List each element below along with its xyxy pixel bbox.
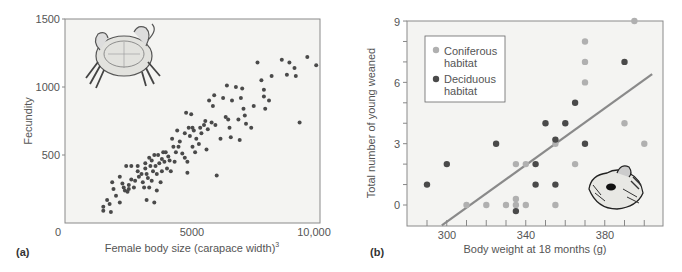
data-point bbox=[513, 161, 519, 167]
panel-a: 500 1000 1500 0 5000 10,000 Female body … bbox=[0, 0, 340, 272]
y-tick-6: 6 bbox=[394, 77, 400, 89]
x-axis-label: Female body size (carapace width)3 bbox=[105, 241, 280, 254]
data-point bbox=[141, 180, 145, 184]
data-point bbox=[129, 164, 133, 168]
data-point bbox=[259, 78, 263, 82]
data-point bbox=[140, 172, 144, 176]
panel-b-label: (b) bbox=[370, 246, 384, 258]
data-point bbox=[155, 188, 159, 192]
data-point bbox=[156, 153, 160, 157]
data-point bbox=[236, 118, 240, 122]
data-point bbox=[151, 169, 155, 173]
x-tick-380: 380 bbox=[596, 229, 614, 241]
data-point bbox=[238, 138, 242, 142]
data-point bbox=[168, 158, 172, 162]
data-point bbox=[178, 139, 182, 143]
data-point bbox=[215, 173, 219, 177]
data-point bbox=[444, 161, 450, 167]
data-point bbox=[127, 183, 131, 187]
data-point bbox=[155, 172, 159, 176]
panel-a-label: (a) bbox=[16, 246, 30, 258]
data-point bbox=[207, 99, 211, 103]
data-point bbox=[101, 205, 105, 209]
y-axis-label: Total number of young weaned bbox=[365, 48, 377, 198]
data-point bbox=[193, 150, 197, 154]
data-point bbox=[582, 141, 588, 147]
data-point bbox=[171, 145, 175, 149]
data-point bbox=[314, 63, 318, 67]
data-point bbox=[192, 129, 196, 133]
data-point bbox=[206, 127, 210, 131]
data-point bbox=[221, 96, 225, 100]
legend-label-deciduous-line2: habitat bbox=[444, 85, 477, 97]
data-point bbox=[202, 123, 206, 127]
data-point bbox=[185, 160, 189, 164]
data-point bbox=[243, 114, 247, 118]
data-point bbox=[184, 111, 188, 115]
data-point bbox=[211, 104, 215, 108]
x-axis-ticks: 300 340 380 bbox=[438, 229, 614, 241]
data-point bbox=[239, 96, 243, 100]
legend-label-coniferous-line2: habitat bbox=[444, 57, 477, 69]
data-point bbox=[199, 131, 203, 135]
data-point bbox=[203, 119, 207, 123]
data-point bbox=[136, 164, 140, 168]
data-point bbox=[127, 187, 131, 191]
x-tick-0: 0 bbox=[55, 226, 61, 238]
data-point bbox=[228, 126, 232, 130]
data-point bbox=[194, 137, 198, 141]
data-point bbox=[142, 186, 146, 190]
legend-swatch-coniferous bbox=[433, 47, 439, 53]
data-point bbox=[582, 79, 588, 85]
data-point bbox=[210, 120, 214, 124]
data-point bbox=[164, 150, 168, 154]
data-point bbox=[242, 107, 246, 111]
data-point bbox=[219, 137, 223, 141]
data-point bbox=[532, 181, 538, 187]
data-point bbox=[157, 161, 161, 165]
data-point bbox=[256, 61, 260, 65]
data-point bbox=[493, 141, 499, 147]
crab-fecundity-scatter-chart: 500 1000 1500 0 5000 10,000 Female body … bbox=[0, 0, 340, 272]
data-point bbox=[162, 160, 166, 164]
panel-b: Coniferous habitat Deciduous habitat 0 3… bbox=[340, 0, 682, 272]
data-point bbox=[185, 171, 189, 175]
data-point bbox=[145, 172, 149, 176]
data-point bbox=[424, 181, 430, 187]
data-point bbox=[262, 95, 266, 99]
data-point bbox=[148, 164, 152, 168]
data-point bbox=[503, 202, 509, 208]
data-point bbox=[641, 141, 647, 147]
data-point bbox=[170, 137, 174, 141]
data-point bbox=[542, 120, 548, 126]
data-point bbox=[249, 126, 253, 130]
data-point bbox=[226, 118, 230, 122]
data-point bbox=[112, 187, 116, 191]
x-tick-340: 340 bbox=[517, 229, 535, 241]
data-point bbox=[305, 55, 309, 59]
data-point bbox=[513, 196, 519, 202]
data-point bbox=[133, 179, 137, 183]
data-point bbox=[262, 88, 266, 92]
data-point bbox=[483, 202, 489, 208]
data-point bbox=[252, 104, 256, 108]
squirrel-young-weaned-scatter-chart: Coniferous habitat Deciduous habitat 0 3… bbox=[340, 0, 682, 272]
data-point bbox=[101, 209, 105, 213]
y-axis-tick-marks bbox=[403, 21, 407, 205]
data-point bbox=[621, 59, 627, 65]
data-point bbox=[213, 123, 217, 127]
data-point bbox=[212, 93, 216, 97]
y-tick-1500: 1500 bbox=[36, 13, 60, 25]
y-tick-500: 500 bbox=[42, 149, 60, 161]
data-point bbox=[552, 202, 558, 208]
data-point bbox=[118, 201, 122, 205]
x-tick-5000: 5000 bbox=[180, 226, 204, 238]
y-axis-ticks: 500 1000 1500 bbox=[36, 13, 65, 161]
data-point bbox=[143, 167, 147, 171]
data-point bbox=[173, 160, 177, 164]
data-point bbox=[198, 126, 202, 130]
data-point bbox=[263, 107, 267, 111]
data-point bbox=[552, 181, 558, 187]
data-point bbox=[166, 154, 170, 158]
data-point bbox=[143, 161, 147, 165]
